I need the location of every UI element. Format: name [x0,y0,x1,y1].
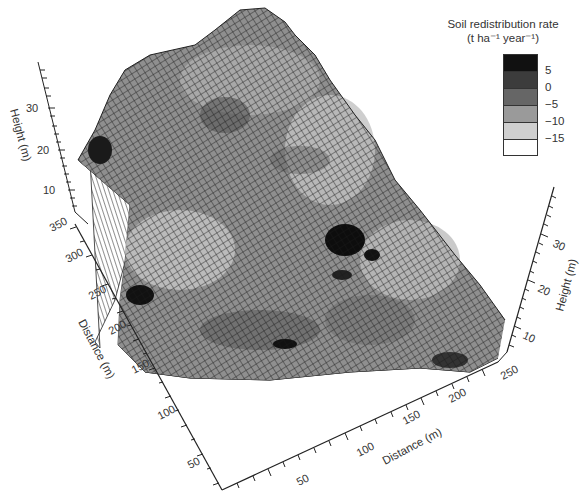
tick-label: 20 [536,282,552,298]
legend-swatch [503,71,538,88]
axis-title-left-height: Height (m) [8,107,34,162]
legend-colorbar [503,54,538,156]
tick-label: 50 [185,454,201,470]
bottom-distance-axis: 50 100 150 200 250 Distance (m) [222,362,520,490]
legend-title-line2: (t ha⁻¹ year⁻¹) [443,31,563,45]
tick-label: 300 [63,246,85,265]
legend-swatch [503,122,538,139]
tick-label: 20 [37,144,49,156]
legend-tick-label: −5 [545,98,558,110]
legend-swatch [503,139,538,156]
legend-swatch [503,105,538,122]
legend-tick-label: −15 [545,132,565,144]
tick-label: 250 [498,363,520,382]
legend-tick-label: −10 [545,115,565,127]
legend-swatch [503,54,538,71]
legend-tick-label: 0 [545,81,551,93]
left-height-axis: 30 20 10 Height (m) [8,62,88,224]
legend-title-line1: Soil redistribution rate [443,18,563,30]
tick-label: 200 [446,386,468,405]
tick-label: 30 [551,237,567,253]
tick-label: 30 [26,102,38,114]
legend-swatch [503,88,538,105]
right-height-axis: 10 20 30 Height (m) [498,187,579,362]
axis-title-bottom-distance: Distance (m) [380,425,443,466]
tick-label: 150 [400,408,422,427]
legend-tick-label: 5 [545,64,551,76]
surface-top [78,8,505,380]
legend-title: Soil redistribution rate (t ha⁻¹ year⁻¹) [443,18,563,45]
axis-title-right-height: Height (m) [553,257,579,312]
tick-label: 50 [294,471,310,487]
tick-label: 10 [521,329,537,345]
tick-label: 350 [47,215,69,234]
tick-label: 100 [354,440,376,459]
tick-label: 10 [43,184,55,196]
surface-plot: 30 20 10 Height (m) 350 300 250 200 150 … [0,0,587,502]
tick-label: 100 [155,403,177,422]
